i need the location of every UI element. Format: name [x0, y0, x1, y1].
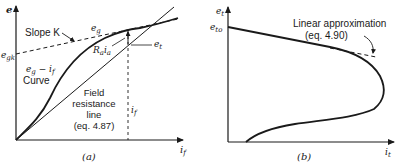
- raia-pointer: [112, 38, 125, 46]
- field-resistance-line-label: Field resistance line (eq. 4.87): [72, 87, 115, 131]
- slope-k-pointer-arrow: [62, 33, 74, 41]
- svg-text:resistance: resistance: [72, 98, 115, 109]
- svg-text:(eq. 4.90): (eq. 4.90): [305, 30, 348, 41]
- et-it-curve: [228, 27, 384, 142]
- et-label: et: [154, 39, 162, 51]
- panel-a-y-axis-label: e: [6, 4, 12, 15]
- panel-b-x-axis-label: it: [385, 147, 391, 159]
- svg-text:Linear approximation: Linear approximation: [293, 18, 386, 29]
- svg-text:line: line: [87, 109, 102, 120]
- panel-b: et it eto Linear approximation (eq. 4.90…: [210, 6, 394, 162]
- panel-b-y-axis-label: et: [216, 6, 224, 18]
- panel-a-x-axis-label: if: [180, 144, 187, 157]
- eto-label: eto: [210, 22, 222, 34]
- curve-word-label: Curve: [23, 75, 50, 86]
- svg-text:Field: Field: [84, 87, 105, 98]
- slope-k-label: Slope K: [25, 27, 60, 38]
- panel-a-caption: (a): [82, 151, 96, 162]
- linear-approximation-label: Linear approximation (eq. 4.90): [293, 18, 386, 41]
- raia-label: Raia: [92, 45, 111, 57]
- if-marker-label: if: [131, 105, 138, 117]
- egk-label: egk: [1, 50, 15, 62]
- panel-a: e if egk Slope K eg Raia et: [1, 4, 187, 162]
- figure: e if egk Slope K eg Raia et: [0, 0, 398, 167]
- eg-label: eg: [91, 23, 101, 35]
- panel-b-caption: (b): [297, 151, 311, 162]
- svg-text:(eq. 4.87): (eq. 4.87): [74, 120, 115, 131]
- linear-approximation-pointer-arrow: [364, 36, 373, 53]
